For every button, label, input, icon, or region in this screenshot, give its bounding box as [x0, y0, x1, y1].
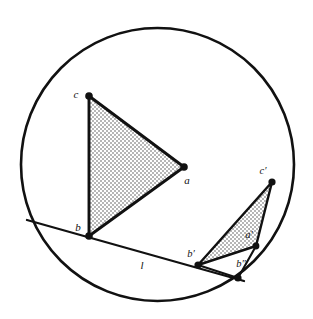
point-a-prime	[253, 243, 260, 250]
point-a	[180, 163, 188, 171]
point-c-prime	[268, 178, 275, 185]
segment-bprime-bdoubleprime	[198, 265, 238, 278]
point-b-double-prime	[234, 274, 241, 281]
label-a-prime: a′	[245, 229, 253, 240]
triangle-abc	[89, 96, 184, 236]
label-line-l: l	[140, 259, 143, 271]
label-b-double-prime: b″	[236, 258, 246, 269]
label-c: c	[74, 88, 79, 100]
point-b	[85, 232, 93, 240]
label-b: b	[75, 221, 81, 233]
label-c-prime: c′	[260, 165, 268, 176]
label-a: a	[184, 174, 190, 186]
figure-canvas: c a b c′ a′ b′ b″ l	[0, 0, 313, 319]
label-b-prime: b′	[187, 248, 195, 259]
point-c	[85, 92, 93, 100]
geometry-figure: c a b c′ a′ b′ b″ l	[0, 0, 313, 319]
point-b-prime	[194, 261, 201, 268]
